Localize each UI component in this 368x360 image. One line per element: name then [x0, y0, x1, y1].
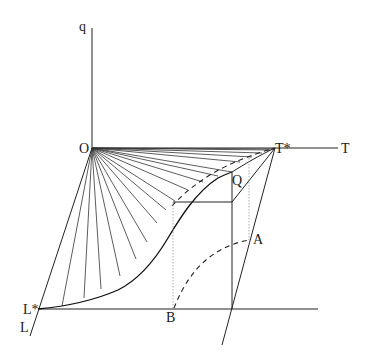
label-l-star: L*	[23, 302, 39, 317]
main-curve	[38, 172, 232, 309]
label-q: q	[79, 19, 86, 34]
label-l: L	[20, 320, 29, 335]
label-t: T	[341, 141, 350, 156]
label-a: A	[253, 232, 264, 247]
label-q-point: Q	[232, 173, 242, 188]
diagram-canvas: q O T* T Q A B L* L	[0, 0, 368, 360]
dashed-curve-b-a	[174, 240, 249, 308]
fan-lines	[62, 148, 275, 306]
line-tstar-down	[222, 148, 275, 345]
label-b: B	[166, 310, 175, 325]
line-o-l	[30, 148, 92, 336]
label-t-star: T*	[275, 141, 291, 156]
q-to-tstar-curve	[232, 148, 275, 172]
label-o: O	[79, 141, 89, 156]
